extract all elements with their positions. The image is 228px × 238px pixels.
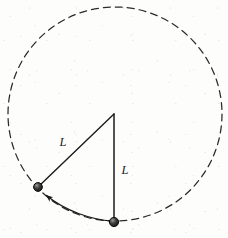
length-label-rest: L (121, 163, 129, 177)
bob-rest (109, 217, 118, 226)
figure-canvas: L L (0, 0, 228, 238)
swing-arc-arrow (47, 196, 113, 222)
pendulum-figure: L L (0, 0, 228, 238)
length-label-displaced: L (59, 135, 67, 149)
bob-displaced (34, 183, 43, 192)
rod-displaced (39, 114, 115, 187)
